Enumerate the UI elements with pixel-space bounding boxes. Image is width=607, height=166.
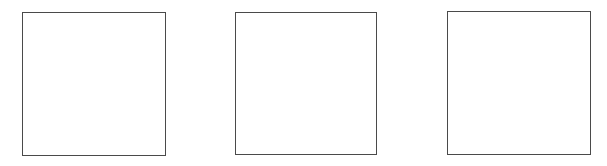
empty-box-1 [22,12,166,156]
empty-box-2 [235,12,377,155]
empty-box-3 [447,11,591,155]
